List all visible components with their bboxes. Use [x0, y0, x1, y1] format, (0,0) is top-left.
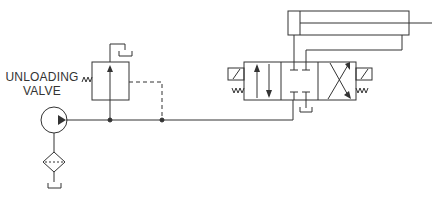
solenoid-right-icon [356, 68, 372, 80]
pump-icon [41, 107, 67, 133]
tank-icon [48, 183, 61, 188]
junction-dot [108, 118, 112, 122]
unloading-valve-label-line1: UNLOADING [2, 70, 82, 84]
filter-icon [43, 152, 65, 172]
spring-icon [82, 77, 92, 82]
pilot-line [129, 82, 162, 120]
solenoid-left-icon [228, 68, 244, 80]
junction-dot [160, 118, 164, 122]
unloading-valve-icon [82, 62, 129, 100]
main-pressure-line [66, 100, 293, 120]
tank-icon [119, 51, 132, 56]
double-acting-cylinder-icon [288, 11, 432, 35]
hydraulic-schematic [0, 0, 447, 204]
spring-left-icon [232, 88, 244, 93]
spring-right-icon [356, 88, 368, 93]
cylinder-line-b [306, 35, 402, 62]
unloading-valve-label-line2: VALVE [2, 84, 82, 98]
directional-control-valve-icon [244, 62, 356, 100]
unloading-valve-label: UNLOADING VALVE [2, 70, 82, 98]
